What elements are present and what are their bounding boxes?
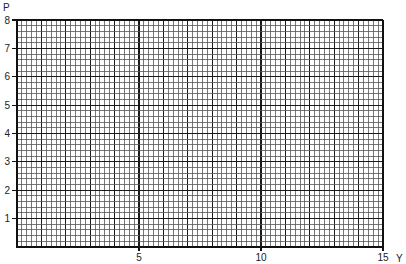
x-tick-label: 5: [136, 252, 142, 263]
y-tick-label: 4: [4, 128, 10, 139]
y-tick-label: 8: [4, 15, 10, 26]
y-tick-label: 7: [4, 43, 10, 54]
x-axis-ticks: 51015: [136, 247, 389, 263]
y-tick-label: 6: [4, 71, 10, 82]
x-tick-label: 10: [255, 252, 267, 263]
y-tick-label: 5: [4, 100, 10, 111]
y-axis-ticks: 12345678: [4, 15, 17, 225]
minor-grid: [17, 20, 383, 247]
graph-paper-chart: 51015 12345678 Y P: [0, 0, 406, 264]
y-tick-label: 2: [4, 185, 10, 196]
x-tick-label: 15: [377, 252, 389, 263]
y-tick-label: 1: [4, 213, 10, 224]
y-tick-label: 3: [4, 156, 10, 167]
y-axis-label: P: [3, 2, 10, 13]
x-axis-label: Y: [396, 253, 403, 264]
